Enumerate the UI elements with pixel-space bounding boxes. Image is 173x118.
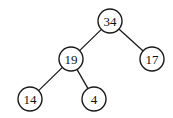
tree-node-34: 34 [98, 9, 122, 33]
edge-19-4 [77, 69, 88, 88]
node-label: 17 [146, 52, 160, 67]
tree-diagram: 341917144 [0, 0, 173, 118]
tree-node-4: 4 [82, 87, 106, 111]
edges-group [39, 29, 144, 91]
tree-node-14: 14 [18, 87, 42, 111]
node-label: 14 [24, 92, 38, 107]
tree-node-17: 17 [140, 47, 164, 71]
edge-34-19 [80, 29, 102, 50]
node-label: 34 [104, 14, 118, 29]
tree-node-19: 19 [59, 47, 83, 71]
node-label: 4 [91, 92, 98, 107]
tree-svg: 341917144 [0, 0, 173, 118]
edge-19-14 [39, 67, 63, 90]
edge-34-17 [119, 29, 143, 51]
node-label: 19 [65, 52, 78, 67]
nodes-group: 341917144 [18, 9, 164, 111]
